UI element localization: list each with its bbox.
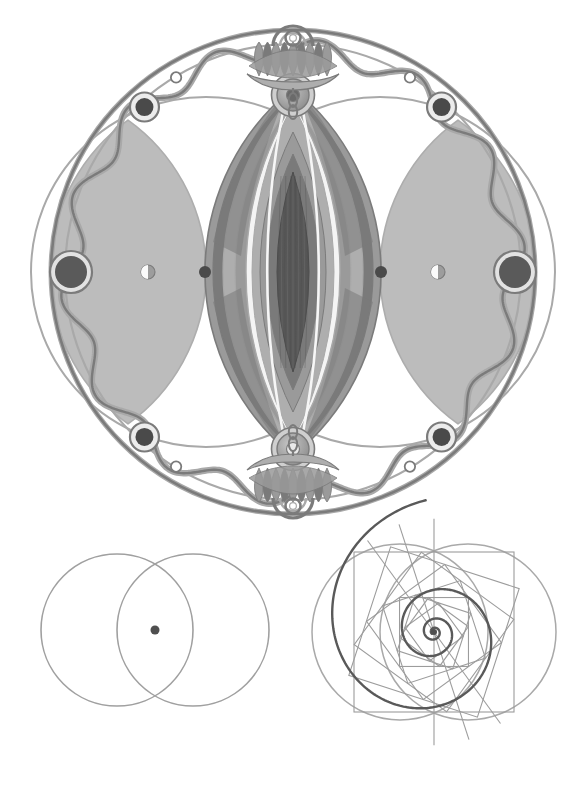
illustration-plate: Sacred Geometry Plate [0,0,586,811]
side-node-1 [55,256,87,288]
figure-golden-spiral-construction [312,500,556,745]
crossing-dot-2 [405,72,415,82]
spiral-eye-dot [431,629,437,635]
vesica-center-dot [151,626,160,635]
lotus-top-ring-core [290,35,297,42]
axis-dot-1 [199,266,211,278]
corner-node-1 [135,98,153,116]
figure-vesica-piscis-construction [41,554,269,706]
crossing-dot-1 [171,72,181,82]
crossing-dot-4 [405,461,415,471]
crossing-dot-3 [171,461,181,471]
figure-vesica-mandala [31,26,555,518]
corner-node-2 [433,98,451,116]
corner-node-4 [433,428,451,446]
side-node-2 [499,256,531,288]
axis-dot-2 [375,266,387,278]
sacred-geometry-artwork [0,0,586,811]
central-mandorla [205,88,381,456]
lotus-top-ring-core [290,503,297,510]
corner-node-3 [135,428,153,446]
